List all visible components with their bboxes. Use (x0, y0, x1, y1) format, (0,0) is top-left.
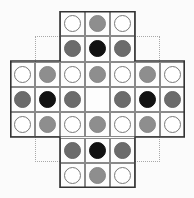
board-cell-r2-c4[interactable] (110, 62, 135, 87)
light-peg-icon[interactable] (139, 66, 156, 83)
game-board (10, 11, 185, 188)
empty-hole-icon[interactable] (64, 167, 81, 184)
board-cell-r3-c5[interactable] (135, 87, 160, 112)
empty-hole-icon[interactable] (164, 66, 181, 83)
black-peg-icon[interactable] (89, 40, 106, 57)
board-cell-r4-c3[interactable] (85, 112, 110, 137)
board-cell-r6-c4[interactable] (110, 163, 135, 188)
dark-peg-icon[interactable] (114, 91, 131, 108)
dark-peg-icon[interactable] (114, 142, 131, 159)
board-cell-r0-c2[interactable] (60, 11, 85, 36)
empty-hole-icon[interactable] (64, 15, 81, 32)
empty-hole-icon[interactable] (114, 167, 131, 184)
board-cell-r1-c2[interactable] (60, 36, 85, 61)
board-cell-r0-c3[interactable] (85, 11, 110, 36)
light-peg-icon[interactable] (89, 15, 106, 32)
board-cell-r5-c2[interactable] (60, 138, 85, 163)
board-cell-r5-c3[interactable] (85, 138, 110, 163)
board-cell-r2-c3[interactable] (85, 62, 110, 87)
board-cell-r2-c5[interactable] (135, 62, 160, 87)
board-cell-r3-c4[interactable] (110, 87, 135, 112)
dark-peg-icon[interactable] (114, 40, 131, 57)
light-peg-icon[interactable] (89, 66, 106, 83)
empty-hole-icon[interactable] (14, 66, 31, 83)
light-peg-icon[interactable] (139, 116, 156, 133)
empty-hole-icon[interactable] (114, 15, 131, 32)
board-cell-r2-c0[interactable] (10, 62, 35, 87)
board-cell-r3-c1[interactable] (35, 87, 60, 112)
empty-hole-icon[interactable] (64, 66, 81, 83)
black-peg-icon[interactable] (139, 91, 156, 108)
dark-peg-icon[interactable] (64, 142, 81, 159)
light-peg-icon[interactable] (39, 116, 56, 133)
board-cell-r6-c3[interactable] (85, 163, 110, 188)
board-cell-r4-c2[interactable] (60, 112, 85, 137)
light-peg-icon[interactable] (89, 167, 106, 184)
board-cell-r3-c2[interactable] (60, 87, 85, 112)
empty-hole-icon[interactable] (114, 66, 131, 83)
board-cell-r0-c4[interactable] (110, 11, 135, 36)
dark-peg-icon[interactable] (164, 91, 181, 108)
light-peg-icon[interactable] (39, 66, 56, 83)
dark-peg-icon[interactable] (64, 91, 81, 108)
board-cell-r4-c6[interactable] (160, 112, 185, 137)
dark-peg-icon[interactable] (14, 91, 31, 108)
board-cell-r3-c3[interactable] (85, 87, 110, 112)
board-cell-r3-c6[interactable] (160, 87, 185, 112)
board-cell-r4-c5[interactable] (135, 112, 160, 137)
board-cell-r3-c0[interactable] (10, 87, 35, 112)
board-cell-r2-c1[interactable] (35, 62, 60, 87)
board-cell-r4-c0[interactable] (10, 112, 35, 137)
dark-peg-icon[interactable] (64, 40, 81, 57)
empty-hole-icon[interactable] (164, 116, 181, 133)
board-cell-r4-c4[interactable] (110, 112, 135, 137)
board-cell-r4-c1[interactable] (35, 112, 60, 137)
board-cell-r6-c2[interactable] (60, 163, 85, 188)
empty-hole-icon[interactable] (114, 116, 131, 133)
empty-hole-icon[interactable] (64, 116, 81, 133)
board-cell-r5-c4[interactable] (110, 138, 135, 163)
board-cell-r2-c6[interactable] (160, 62, 185, 87)
board-cell-r1-c3[interactable] (85, 36, 110, 61)
black-peg-icon[interactable] (39, 91, 56, 108)
empty-hole-icon[interactable] (14, 116, 31, 133)
board-cell-r2-c2[interactable] (60, 62, 85, 87)
light-peg-icon[interactable] (89, 116, 106, 133)
black-peg-icon[interactable] (89, 142, 106, 159)
board-cell-r1-c4[interactable] (110, 36, 135, 61)
